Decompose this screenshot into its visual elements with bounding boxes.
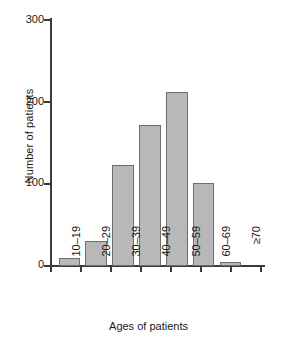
- x-tick-label-50-59: 50–59: [190, 226, 202, 272]
- y-tick-label-0: 0: [4, 259, 44, 270]
- y-tick-label-100: 100: [4, 177, 44, 188]
- x-tick-label-20-29: 20–29: [100, 226, 112, 272]
- y-axis-title: Number of patients: [23, 46, 35, 226]
- x-tick-mark-0: [50, 266, 52, 272]
- y-tick-label-200: 200: [4, 96, 44, 107]
- x-tick-label-40-49: 40–49: [160, 226, 172, 272]
- x-tick-label-30-39: 30–39: [130, 226, 142, 272]
- x-tick-label-60-69: 60–69: [220, 226, 232, 272]
- bars-container: [50, 18, 265, 266]
- bar-40-49: [139, 125, 161, 266]
- bar-chart-figure: Number of patients 300 200 100 0 10–19 2…: [0, 0, 297, 340]
- x-tick-label-70-plus: ≥70: [250, 226, 262, 272]
- x-tick-label-10-19: 10–19: [70, 226, 82, 272]
- y-tick-label-300: 300: [4, 14, 44, 25]
- x-axis-title: Ages of patients: [0, 320, 297, 332]
